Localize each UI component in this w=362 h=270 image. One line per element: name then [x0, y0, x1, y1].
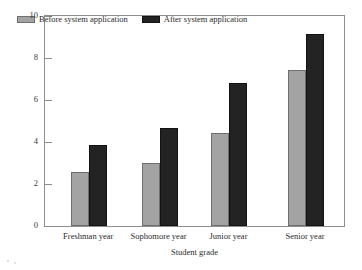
plot-area: [45, 16, 344, 226]
y-axis-tick-label: 0: [0, 221, 38, 230]
x-axis-category-label: Freshman year: [63, 231, 113, 241]
y-axis-tick: [45, 226, 52, 227]
plot-frame: [44, 15, 345, 227]
bar-after: [229, 83, 247, 226]
x-axis-category-label: Junior year: [209, 231, 247, 241]
scan-artifact: [6, 259, 22, 265]
bar-after: [89, 145, 107, 226]
y-axis-tick: [45, 142, 52, 143]
y-axis-tick: [45, 58, 52, 59]
y-axis-tick-label: 4: [0, 137, 38, 146]
bar-after: [306, 34, 324, 226]
bar-chart-figure: Information Literacy rating Before syste…: [0, 0, 362, 270]
bar-before: [142, 163, 160, 226]
legend-entry-after: After system application: [142, 14, 248, 24]
y-axis-tick-label: 8: [0, 53, 38, 62]
y-axis-tick: [45, 184, 52, 185]
x-axis-category-label: Sophomore year: [131, 231, 187, 241]
bar-before: [71, 172, 89, 226]
y-axis-tick-label: 10: [0, 11, 38, 20]
y-axis-tick-label: 2: [0, 179, 38, 188]
legend-swatch-after-icon: [142, 16, 160, 23]
bar-before: [211, 133, 229, 226]
legend-label-after: After system application: [164, 14, 248, 24]
legend-label-before: Before system application: [39, 14, 128, 24]
x-axis-category-label: Senior year: [286, 231, 325, 241]
y-axis-tick-label: 6: [0, 95, 38, 104]
y-axis-tick: [45, 100, 52, 101]
bar-after: [160, 128, 178, 226]
chart-legend: Before system application After system a…: [17, 14, 247, 24]
bar-before: [288, 70, 306, 226]
x-axis-title: Student grade: [44, 247, 345, 257]
